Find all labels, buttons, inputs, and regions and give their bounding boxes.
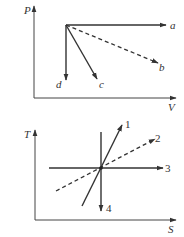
state-point bbox=[99, 166, 103, 170]
pv-diagram: P V a b c d bbox=[23, 4, 176, 113]
pv-x-label: V bbox=[168, 101, 176, 113]
process-2-arrow bbox=[56, 139, 155, 191]
process-a-label: a bbox=[170, 19, 176, 31]
process-d-label: d bbox=[56, 78, 62, 90]
process-b-label: b bbox=[159, 61, 165, 73]
process-b-arrow bbox=[66, 25, 158, 63]
thermo-diagrams: P V a b c d T S 3 4 1 2 bbox=[0, 0, 184, 237]
pv-y-label: P bbox=[23, 4, 31, 16]
ts-x-label: S bbox=[168, 223, 174, 235]
process-c-arrow bbox=[66, 25, 97, 79]
ts-y-label: T bbox=[24, 128, 31, 140]
process-c-label: c bbox=[99, 78, 104, 90]
process-2-label: 2 bbox=[155, 132, 161, 144]
ts-diagram: T S 3 4 1 2 bbox=[24, 118, 176, 235]
process-1-label: 1 bbox=[125, 118, 131, 130]
process-3-label: 3 bbox=[165, 162, 171, 174]
process-1-arrow bbox=[82, 125, 122, 206]
process-4-label: 4 bbox=[106, 202, 112, 214]
